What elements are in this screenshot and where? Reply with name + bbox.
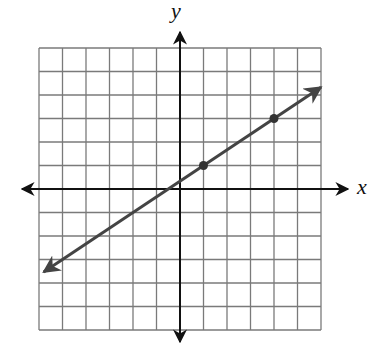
y-axis-label: y (169, 0, 181, 23)
x-axis-label: x (356, 174, 367, 199)
plotted-line (44, 87, 321, 272)
data-point (270, 114, 279, 123)
coordinate-plane: x y (0, 0, 373, 352)
data-point (199, 161, 208, 170)
plot-series (44, 87, 321, 272)
